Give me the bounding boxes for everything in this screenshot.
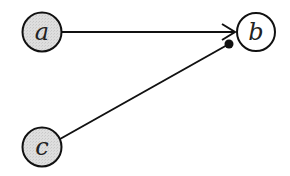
node-b[interactable]: b [237,13,275,51]
node-c[interactable]: c [23,128,62,167]
edge-c-to-b [60,40,234,140]
dot-head-icon [225,40,234,49]
edge-line-c-b [60,44,229,139]
edge-a-to-b [62,24,235,40]
node-a[interactable]: a [23,13,62,52]
node-a-label: a [35,18,49,46]
node-c-label: c [35,133,48,161]
graph-diagram: a b c [0,0,290,176]
node-b-label: b [248,18,263,46]
